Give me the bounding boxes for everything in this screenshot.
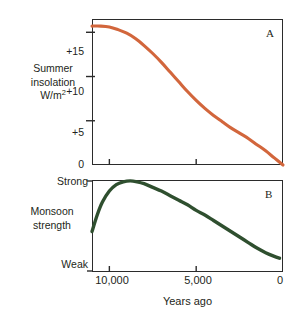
- panel-a-yaxis-title-line2: insolation: [31, 76, 75, 88]
- panel-a-plot-frame: [92, 19, 283, 165]
- panel-b-yaxis-title-line1: Monsoon: [30, 205, 73, 217]
- panel-a-letter: A: [266, 27, 274, 39]
- figure-container: A +15 +10 +5 0 Summer insolation W/m2 B …: [0, 0, 298, 317]
- panel-b-ytick-label-strong: Strong: [28, 175, 88, 187]
- xaxis-title: Years ago: [92, 295, 283, 307]
- panel-b-letter: B: [265, 188, 273, 200]
- panel-a-yaxis-title-line1: Summer: [33, 62, 73, 74]
- panel-b-plot-frame: [92, 180, 283, 272]
- panel-b-yaxis-title-line2: strength: [33, 219, 71, 231]
- panel-a-ytick-label-0: 0: [50, 158, 84, 170]
- panel-a-yaxis-title-exponent: 2: [62, 88, 66, 97]
- panel-a-ytick-label-5: +5: [50, 126, 84, 138]
- panel-b-yaxis-title: Monsoon strength: [18, 205, 86, 232]
- panel-a-yaxis-title: Summer insolation W/m2: [20, 62, 86, 103]
- panel-b-ytick-label-weak: Weak: [28, 258, 88, 270]
- panel-a-ytick-label-15: +15: [50, 45, 84, 57]
- xaxis-tick-label-10000: 10,000: [81, 274, 143, 286]
- panel-a-yaxis-title-units: W/m: [40, 89, 62, 101]
- xaxis-tick-label-0: 0: [266, 274, 294, 286]
- xaxis-tick-label-5000: 5,000: [170, 274, 226, 286]
